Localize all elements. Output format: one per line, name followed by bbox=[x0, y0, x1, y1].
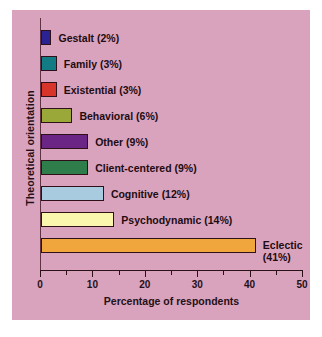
plot-area: 01020304050 Gestalt (2%)Family (3%)Exist… bbox=[40, 18, 302, 270]
bar-label-other: Other (9%) bbox=[95, 136, 148, 148]
x-tick-30 bbox=[197, 271, 198, 277]
bar-label-line-2: (41%) bbox=[263, 251, 303, 263]
x-tick-minor-5 bbox=[66, 271, 67, 275]
x-tick-minor-15 bbox=[119, 271, 120, 275]
bar-psychodynamic[interactable] bbox=[41, 212, 114, 227]
bar-label-cognitive: Cognitive (12%) bbox=[111, 188, 190, 200]
chart-panel: Theoretical orientation 01020304050 Gest… bbox=[12, 10, 310, 320]
bar-cognitive[interactable] bbox=[41, 186, 104, 201]
x-tick-20 bbox=[145, 271, 146, 277]
bar-existential[interactable] bbox=[41, 82, 57, 97]
y-axis-label: Theoretical orientation bbox=[24, 58, 36, 238]
x-tick-40 bbox=[250, 271, 251, 277]
bar-label-psychodynamic: Psychodynamic (14%) bbox=[121, 214, 232, 226]
bar-label-client-centered: Client-centered (9%) bbox=[95, 162, 197, 174]
x-tick-10 bbox=[92, 271, 93, 277]
bar-label-existential: Existential (3%) bbox=[64, 84, 142, 96]
x-tick-label-30: 30 bbox=[192, 279, 203, 290]
x-tick-minor-35 bbox=[223, 271, 224, 275]
x-axis-label: Percentage of respondents bbox=[40, 295, 303, 307]
x-tick-0 bbox=[40, 271, 41, 277]
bar-label-eclectic: Eclectic(41%) bbox=[263, 239, 303, 263]
x-tick-minor-25 bbox=[171, 271, 172, 275]
bar-client-centered[interactable] bbox=[41, 160, 88, 175]
bar-eclectic[interactable] bbox=[41, 238, 256, 253]
figure: Theoretical orientation 01020304050 Gest… bbox=[0, 0, 322, 337]
bar-label-family: Family (3%) bbox=[64, 58, 122, 70]
bar-family[interactable] bbox=[41, 56, 57, 71]
bar-label-gestalt: Gestalt (2%) bbox=[58, 32, 119, 44]
x-tick-label-0: 0 bbox=[37, 279, 43, 290]
bar-gestalt[interactable] bbox=[41, 30, 51, 45]
x-tick-label-50: 50 bbox=[296, 279, 307, 290]
x-tick-minor-45 bbox=[276, 271, 277, 275]
bar-label-behavioral: Behavioral (6%) bbox=[79, 110, 158, 122]
x-tick-50 bbox=[302, 271, 303, 277]
x-tick-label-40: 40 bbox=[244, 279, 255, 290]
bar-label-line-1: Eclectic bbox=[263, 239, 303, 251]
x-tick-label-20: 20 bbox=[139, 279, 150, 290]
bar-behavioral[interactable] bbox=[41, 108, 72, 123]
x-tick-label-10: 10 bbox=[87, 279, 98, 290]
bar-other[interactable] bbox=[41, 134, 88, 149]
